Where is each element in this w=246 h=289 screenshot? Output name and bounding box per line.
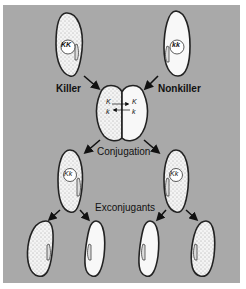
conjugant-left-K: K xyxy=(106,98,111,105)
cut-off-caption xyxy=(20,283,220,289)
paramecium-conjugation-diagram xyxy=(0,0,246,289)
exconjugants-label: Exconjugants xyxy=(95,202,155,213)
nonkiller-label: Nonkiller xyxy=(158,83,201,94)
left-exconjugant-genotype: Kk xyxy=(64,170,72,177)
progeny-cell-4 xyxy=(191,221,214,276)
right-exconjugant-genotype: Kk xyxy=(170,170,178,177)
progeny-cell-2 xyxy=(85,221,105,276)
right-exconjugant xyxy=(164,150,189,212)
conjugant-left-k: k xyxy=(106,108,110,115)
progeny-cell-1 xyxy=(27,221,53,276)
conjugant-right-k: k xyxy=(132,108,136,115)
nonkiller-genotype: kk xyxy=(172,41,180,48)
killer-genotype: KK xyxy=(61,41,71,48)
conjugation-label: Conjugation xyxy=(97,146,150,157)
progeny-cell-3 xyxy=(139,221,159,276)
conjugating-pair xyxy=(97,86,148,141)
killer-label: Killer xyxy=(56,83,81,94)
left-exconjugant xyxy=(58,150,83,212)
conjugant-right-K: K xyxy=(132,98,137,105)
